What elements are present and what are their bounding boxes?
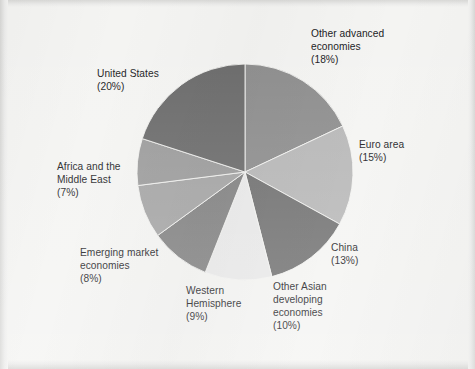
scan-edge-bottom <box>0 360 475 369</box>
pie-label-other-advanced-economies: Other advanced economies (18%) <box>311 27 461 66</box>
pie-label-western-hemisphere: Western Hemisphere (9%) <box>186 284 281 323</box>
chart-figure: Other advanced economies (18%) Euro area… <box>0 0 475 369</box>
pie-label-africa-and-the-middle-east: Africa and the Middle East (7%) <box>57 160 167 199</box>
pie-label-united-states: United States (20%) <box>97 67 217 93</box>
scan-edge-left <box>0 0 8 369</box>
pie-label-emerging-market-economies: Emerging market economies (8%) <box>80 246 190 285</box>
scan-edge-right <box>468 0 475 369</box>
pie-label-other-asian-developing-economies: Other Asian developing economies (10%) <box>273 280 383 332</box>
pie-label-euro-area: Euro area (15%) <box>359 138 469 164</box>
scan-edge-top <box>0 0 475 7</box>
pie-label-china: China (13%) <box>331 241 431 267</box>
